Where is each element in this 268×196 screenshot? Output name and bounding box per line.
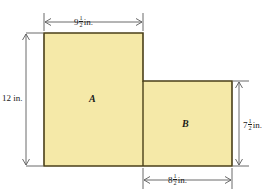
left-dimension-whole: 12 [2,93,11,103]
bottom-dimension-denominator: 2 [173,180,177,186]
right-dimension-fraction: 12 [248,118,252,132]
bottom-dimension-label: 812in. [168,173,187,187]
left-dimension-label: 12 in. [2,94,23,103]
region-label-b: B [182,119,189,129]
bottom-dimension-unit: in. [178,175,187,185]
top-dimension-denominator: 2 [79,22,83,28]
top-dimension-group [44,13,143,31]
top-dimension-fraction: 12 [79,15,83,29]
top-dimension-label: 912in. [74,15,93,29]
bottom-dimension-whole: 8 [168,175,173,185]
bottom-dimension-fraction: 12 [173,173,177,187]
right-dimension-denominator: 2 [248,125,252,131]
figure-container: 912in. 12 in. 712in. 812in. A B [0,0,268,196]
left-dimension-unit: in. [13,93,22,103]
l-shape-polygon [44,33,232,166]
right-dimension-unit: in. [253,120,262,130]
bottom-dimension-group [143,168,232,189]
top-dimension-unit: in. [84,17,93,27]
top-dimension-whole: 9 [74,17,79,27]
right-dimension-whole: 7 [243,120,248,130]
right-dimension-label: 712in. [243,118,262,132]
region-label-a: A [89,94,96,104]
left-dimension-group [23,33,44,166]
composite-shape-diagram [0,0,268,196]
